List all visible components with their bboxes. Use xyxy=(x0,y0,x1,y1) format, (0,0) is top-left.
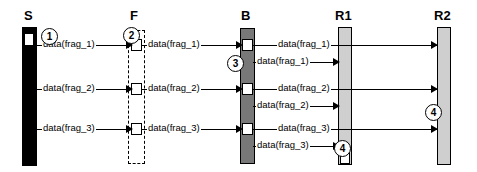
callout-marker-4-r1: 4 xyxy=(334,140,351,157)
message-arrowhead-b-r2-2 xyxy=(431,85,438,93)
lifeline-bar-s xyxy=(22,27,37,166)
activation-box-b-3 xyxy=(242,123,253,135)
lifeline-label-b: B xyxy=(241,8,250,23)
message-label-f-b-3: data(frag_3) xyxy=(147,123,201,133)
lifeline-label-f: F xyxy=(130,8,138,23)
message-label-f-b-1: data(frag_1) xyxy=(147,39,201,49)
message-label-b-r1-1: data(frag_1) xyxy=(256,56,310,66)
activation-box-b-1 xyxy=(242,39,253,51)
callout-marker-2: 2 xyxy=(123,27,140,44)
message-arrowhead-b-r2-3 xyxy=(431,125,438,133)
message-label-s-f-2: data(frag_2) xyxy=(42,83,96,93)
message-arrowhead-f-b-2 xyxy=(236,85,243,93)
activation-box-b-2 xyxy=(242,83,253,95)
sequence-diagram-canvas: S F B R1 R2 data(frag_1) data(frag_1) da… xyxy=(0,0,477,172)
message-label-b-r1-3: data(frag_3) xyxy=(256,140,310,150)
message-arrowhead-f-b-3 xyxy=(236,125,243,133)
callout-marker-3: 3 xyxy=(227,55,244,72)
message-label-b-r2-1: data(frag_1) xyxy=(277,39,331,49)
message-label-b-r1-2: data(frag_2) xyxy=(256,100,310,110)
lifeline-label-r2: R2 xyxy=(434,8,451,23)
message-arrowhead-b-r1-2 xyxy=(333,102,340,110)
callout-marker-1: 1 xyxy=(41,28,58,45)
message-label-f-b-2: data(frag_2) xyxy=(147,83,201,93)
lifeline-label-r1: R1 xyxy=(335,8,352,23)
message-label-s-f-3: data(frag_3) xyxy=(42,123,96,133)
message-arrowhead-b-r2-1 xyxy=(431,41,438,49)
message-arrowhead-f-b-1 xyxy=(236,41,243,49)
message-arrowhead-b-r1-1 xyxy=(333,58,340,66)
lifeline-label-s: S xyxy=(24,8,33,23)
activation-box-s-1 xyxy=(24,33,34,46)
message-label-b-r2-3: data(frag_3) xyxy=(277,123,331,133)
callout-marker-4-r2: 4 xyxy=(425,104,442,121)
lifeline-bar-r2 xyxy=(437,27,451,165)
message-arrowhead-s-f-2 xyxy=(126,85,133,93)
message-label-b-r2-2: data(frag_2) xyxy=(277,83,331,93)
message-arrowhead-s-f-3 xyxy=(126,125,133,133)
